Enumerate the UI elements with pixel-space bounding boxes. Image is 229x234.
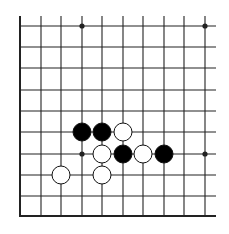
star-point-icon xyxy=(202,151,207,156)
white-stone-icon xyxy=(52,166,70,184)
black-stone-icon xyxy=(93,123,111,141)
star-point-icon xyxy=(79,23,84,28)
black-stone-icon xyxy=(73,123,91,141)
go-board xyxy=(0,0,229,234)
star-point-icon xyxy=(79,151,84,156)
white-stone-icon xyxy=(114,123,132,141)
board-grid xyxy=(19,16,216,216)
black-stone-icon xyxy=(155,145,173,163)
star-point-icon xyxy=(202,23,207,28)
white-stone-icon xyxy=(93,166,111,184)
white-stone-icon xyxy=(93,145,111,163)
white-stone-icon xyxy=(134,145,152,163)
black-stone-icon xyxy=(114,145,132,163)
